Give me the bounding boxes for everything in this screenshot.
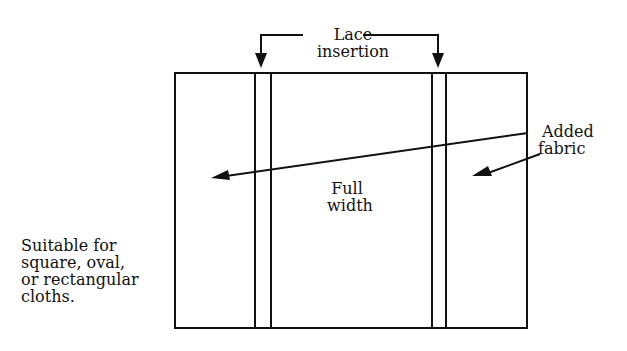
- full-width-label: Full width: [318, 180, 382, 214]
- added-fabric-label: Added fabric: [542, 123, 594, 157]
- label-line: insertion: [300, 43, 406, 60]
- suitability-note: Suitable for square, oval, or rectangula…: [21, 237, 139, 305]
- label-line: fabric: [538, 140, 594, 157]
- added-fabric-leader-short: [488, 154, 540, 173]
- label-line: Lace: [300, 26, 406, 43]
- arrow-left-icon: [472, 166, 492, 176]
- label-line: square, oval,: [21, 254, 139, 271]
- label-line: Suitable for: [21, 237, 139, 254]
- label-line: width: [318, 197, 382, 214]
- label-line: Added: [542, 123, 594, 140]
- lace-insertion-label: Lace insertion: [300, 26, 406, 60]
- arrow-down-icon: [255, 53, 267, 68]
- arrow-left-icon: [211, 170, 230, 180]
- lace-left-leader: [261, 35, 303, 55]
- label-line: Full: [312, 180, 382, 197]
- label-line: or rectangular: [21, 271, 139, 288]
- label-line: cloths.: [21, 288, 139, 305]
- arrow-down-icon: [432, 53, 444, 68]
